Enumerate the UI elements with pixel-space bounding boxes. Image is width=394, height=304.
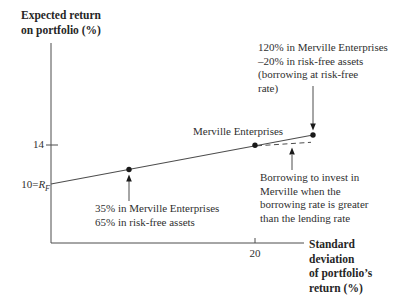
y-axis-title: Expected return on portfolio (%)	[21, 8, 101, 37]
arrow-up-35-65-icon	[126, 175, 132, 202]
annotation-120-minus20: 120% in Merville Enterprises –20% in ris…	[258, 41, 388, 95]
chart-figure: Expected return on portfolio (%) 14 10=R…	[0, 0, 394, 304]
point-120-minus20	[310, 132, 315, 137]
rf-prefix: 10=	[21, 178, 38, 190]
point-merville	[252, 143, 257, 148]
risk-free-rate-label: 10=RF	[10, 178, 50, 196]
annotation-35-65: 35% in Merville Enterprises 65% in risk-…	[95, 202, 219, 229]
y-tick-14-label: 14	[22, 138, 44, 152]
rf-subscript: F	[45, 184, 50, 193]
x-tick-20-label: 20	[243, 247, 267, 261]
x-axis-title: Standard deviation of portfolio’s return…	[309, 237, 372, 295]
arrow-up-borrowing-icon	[289, 148, 295, 171]
merville-point-label: Merville Enterprises	[193, 125, 283, 139]
annotation-borrowing-rate: Borrowing to invest in Merville when the…	[260, 171, 368, 225]
point-35-65	[126, 167, 131, 172]
